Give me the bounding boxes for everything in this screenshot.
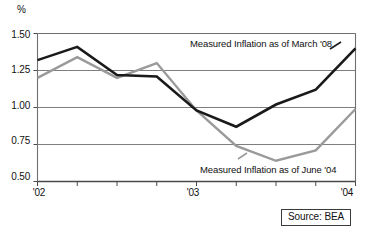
series-annotation-june-04: Measured Inflation as of June '04 [200,164,336,175]
plot-area [0,0,367,232]
series-line [38,47,356,127]
source-note: Source: BEA [281,209,351,226]
annotation-leader-gray [238,153,247,159]
series-annotation-march-08: Measured Inflation as of March '08 [190,38,332,49]
gridlines [38,34,356,182]
x-axis-ticks [38,182,356,187]
y-axis-ticks [34,34,38,182]
inflation-line-chart: % 1.50 1.25 1.00 0.75 0.50 '02 '03 '04 M… [0,0,367,232]
data-series-layer [38,42,356,161]
